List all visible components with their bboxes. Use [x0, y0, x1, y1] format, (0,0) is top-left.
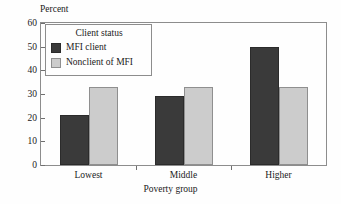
y-axis-title: Percent — [40, 4, 69, 15]
bar — [89, 87, 118, 165]
bar — [250, 47, 279, 165]
bar — [60, 115, 89, 165]
y-tick-label: 20 — [7, 113, 37, 123]
bar-chart: Percent 0102030405060 LowestMiddleHigher… — [0, 0, 341, 204]
y-tick-label: 50 — [7, 42, 37, 52]
x-axis-title: Poverty group — [0, 184, 341, 195]
x-tick-mark — [231, 166, 232, 170]
legend-item-mfi-client: MFI client — [51, 40, 147, 55]
legend-title: Client status — [51, 27, 147, 39]
bar — [155, 96, 184, 165]
x-tick-label: Lowest — [75, 170, 103, 181]
x-tick-label: Middle — [170, 170, 197, 181]
y-tick-label: 60 — [7, 18, 37, 28]
legend-item-label: MFI client — [66, 42, 106, 53]
bar — [184, 87, 213, 165]
y-tick-label: 10 — [7, 136, 37, 146]
y-tick-label: 0 — [7, 160, 37, 170]
legend-item-nonclient-of-mfi: Nonclient of MFI — [51, 55, 147, 70]
y-tick-label: 40 — [7, 65, 37, 75]
bar — [279, 87, 308, 165]
legend: Client status MFI client Nonclient of MF… — [45, 24, 152, 76]
x-tick-mark — [136, 166, 137, 170]
legend-item-label: Nonclient of MFI — [66, 57, 133, 68]
legend-swatch-icon — [51, 58, 61, 68]
y-tick-mark — [41, 165, 45, 166]
y-tick-label: 30 — [7, 89, 37, 99]
x-tick-label: Higher — [265, 170, 291, 181]
legend-swatch-icon — [51, 43, 61, 53]
